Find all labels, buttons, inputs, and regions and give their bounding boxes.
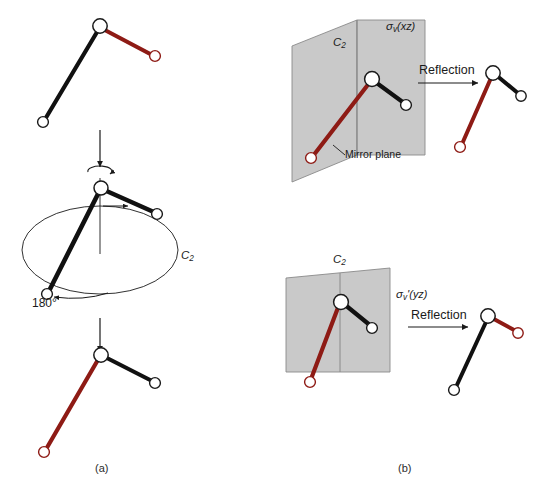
atom-red-terminal <box>513 328 523 338</box>
atom-center <box>486 66 500 80</box>
molecule-a-top <box>38 19 161 128</box>
rotation-angle-label: 180° <box>32 297 57 309</box>
atom-black-terminal <box>516 91 526 101</box>
bond-red <box>101 28 154 56</box>
reflection-label-top: Reflection <box>419 64 475 77</box>
atom-center <box>93 19 107 33</box>
atom-center <box>94 181 108 195</box>
molecule-a-bottom <box>39 348 161 458</box>
panel-b-caption: (b) <box>398 463 411 474</box>
spin-arrow-icon <box>88 166 112 174</box>
mirror-plane-label: Mirror plane <box>345 149 401 160</box>
atom-center <box>334 295 349 310</box>
mirror-plane-bottom <box>286 268 390 372</box>
atom-right-terminal <box>152 209 163 220</box>
symmetry-operations-figure: C2 180° (a) σv(xz) C2 Mirror plane Refle… <box>0 0 538 496</box>
atom-black-terminal <box>449 385 460 396</box>
bond-black <box>456 322 486 387</box>
atom-red-terminal <box>455 142 466 153</box>
bond-black <box>103 356 154 382</box>
sigma-v-xz-label: σv(xz) <box>386 21 415 34</box>
bond-red <box>492 318 516 331</box>
molecule-a-middle <box>42 181 163 299</box>
reflection-label-bottom: Reflection <box>411 309 467 322</box>
bond-black-left <box>48 190 100 293</box>
c2-axis-label-panel-a: C2 <box>181 250 194 263</box>
atom-red-terminal <box>150 51 161 62</box>
atom-black-terminal <box>367 323 378 334</box>
atom-black-terminal <box>150 378 161 389</box>
atom-center <box>481 309 495 323</box>
bond-black <box>496 75 519 94</box>
atom-center <box>365 72 380 87</box>
panel-a-caption: (a) <box>95 463 108 474</box>
sigma-v-prime-yz-label: σv'(yz) <box>396 289 427 302</box>
atom-black-terminal <box>401 100 412 111</box>
bond-black <box>44 27 100 121</box>
bond-red <box>462 78 491 144</box>
atom-center <box>94 348 108 362</box>
atom-red-terminal <box>39 447 50 458</box>
c2-axis-label-panel-b-bottom: C2 <box>333 254 346 267</box>
c2-axis-label-panel-b-top: C2 <box>333 37 346 50</box>
plane-face <box>286 268 390 372</box>
atom-red-terminal <box>305 377 316 388</box>
bond-red <box>45 358 99 451</box>
atom-red-terminal <box>306 153 317 164</box>
molecule-b-top-reflected <box>455 66 527 153</box>
atom-black-terminal <box>38 117 49 128</box>
